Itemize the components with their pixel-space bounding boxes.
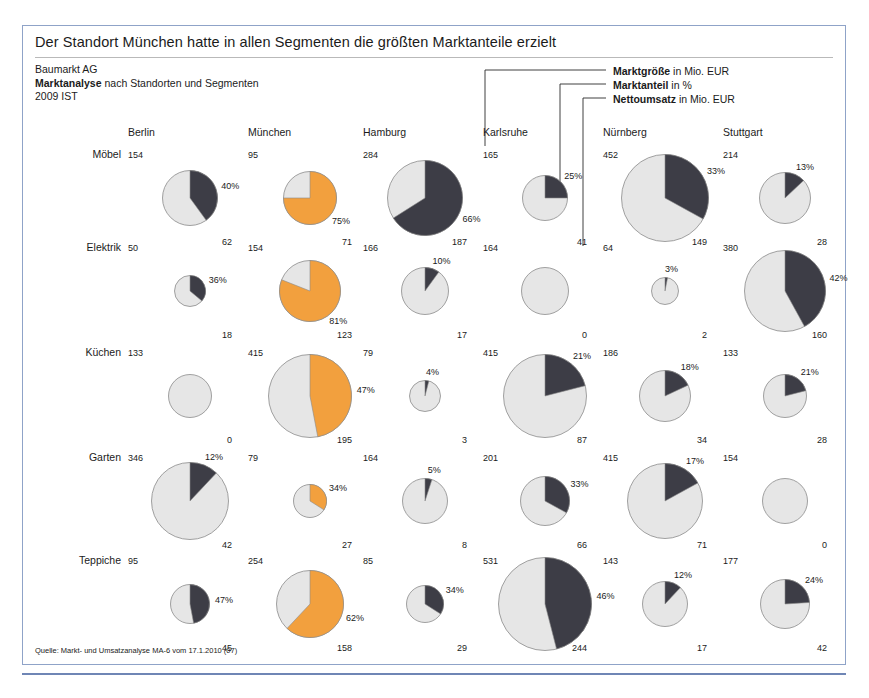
marktanteil-value: 81% xyxy=(329,316,347,326)
pie-cell: 8534%29 xyxy=(363,554,481,659)
pie-chart xyxy=(639,370,691,426)
marktanteil-value: 13% xyxy=(796,162,814,172)
marktgroesse-value: 154 xyxy=(128,150,143,160)
pie-cell: 9547%45 xyxy=(128,554,246,659)
marktgroesse-value: 154 xyxy=(248,243,263,253)
pie-cell: 15440%62 xyxy=(128,148,246,253)
marktgroesse-value: 79 xyxy=(363,348,373,358)
pie-cell: 53146%244 xyxy=(483,554,601,659)
marktgroesse-value: 284 xyxy=(363,150,378,160)
pie-chart xyxy=(162,170,218,230)
pie-cell: 41547%195 xyxy=(248,346,366,451)
pie-chart xyxy=(522,175,568,225)
marktgroesse-value: 214 xyxy=(723,150,738,160)
marktgroesse-value: 415 xyxy=(483,348,498,358)
marktanteil-value: 47% xyxy=(215,595,233,605)
nettoumsatz-value: 2 xyxy=(667,330,707,340)
pie-chart xyxy=(760,579,810,633)
pie-chart xyxy=(293,484,327,522)
pie-cell: 16610%17 xyxy=(363,241,481,346)
pie-cell: 45233%149 xyxy=(603,148,721,253)
marktanteil-value: 4% xyxy=(426,367,439,377)
pie-chart xyxy=(387,160,463,240)
marktgroesse-value: 531 xyxy=(483,556,498,566)
marktgroesse-value: 164 xyxy=(363,453,378,463)
marktgroesse-value: 95 xyxy=(128,556,138,566)
pie-chart xyxy=(406,585,444,627)
marktgroesse-value: 154 xyxy=(723,453,738,463)
marktanteil-value: 42% xyxy=(829,273,847,283)
marktgroesse-value: 380 xyxy=(723,243,738,253)
nettoumsatz-value: 123 xyxy=(312,330,352,340)
marktgroesse-value: 177 xyxy=(723,556,738,566)
row-header-garten: Garten xyxy=(43,451,121,463)
pie-cell: 1330 xyxy=(128,346,246,451)
marktanteil-value: 10% xyxy=(433,256,451,266)
marktanteil-value: 25% xyxy=(564,171,582,181)
marktanteil-value: 34% xyxy=(329,483,347,493)
nettoumsatz-value: 29 xyxy=(427,643,467,653)
pie-chart xyxy=(651,277,679,309)
pie-cell: 1540 xyxy=(723,451,841,556)
marktanteil-value: 66% xyxy=(462,214,480,224)
nettoumsatz-value: 17 xyxy=(667,643,707,653)
nettoumsatz-value: 17 xyxy=(427,330,467,340)
marktanteil-value: 75% xyxy=(332,216,350,226)
nettoumsatz-value: 160 xyxy=(787,330,827,340)
pie-cell: 13321%28 xyxy=(723,346,841,451)
pie-chart xyxy=(498,557,592,655)
nettoumsatz-value: 8 xyxy=(427,540,467,550)
pie-cell: 794%3 xyxy=(363,346,481,451)
pie-chart xyxy=(174,275,206,311)
column-header-berlin: Berlin xyxy=(128,126,155,138)
nettoumsatz-value: 66 xyxy=(547,540,587,550)
pie-cell: 18618%34 xyxy=(603,346,721,451)
marktgroesse-value: 79 xyxy=(248,453,258,463)
pie-chart xyxy=(409,380,441,416)
marktgroesse-value: 415 xyxy=(248,348,263,358)
pie-cell: 7934%27 xyxy=(248,451,366,556)
pie-chart xyxy=(170,584,210,628)
pie-cell: 9575%71 xyxy=(248,148,366,253)
marktanteil-value: 34% xyxy=(446,585,464,595)
marktanteil-value: 33% xyxy=(571,479,589,489)
nettoumsatz-value: 3 xyxy=(427,435,467,445)
pie-chart xyxy=(521,267,569,319)
pie-cell: 25462%158 xyxy=(248,554,366,659)
marktanteil-value: 5% xyxy=(428,465,441,475)
marktanteil-value: 18% xyxy=(681,362,699,372)
report-frame: Der Standort München hatte in allen Segm… xyxy=(22,25,846,665)
marktanteil-value: 17% xyxy=(686,456,704,466)
marktanteil-value: 21% xyxy=(801,367,819,377)
pie-chart xyxy=(401,267,449,319)
source-note: Quelle: Markt- und Umsatzanalyse MA-6 vo… xyxy=(35,646,237,655)
nettoumsatz-value: 195 xyxy=(312,435,352,445)
marktanteil-value: 12% xyxy=(674,570,692,580)
marktanteil-value: 3% xyxy=(665,264,678,274)
pie-cell: 41517%71 xyxy=(603,451,721,556)
marktanteil-value: 62% xyxy=(346,613,364,623)
nettoumsatz-value: 0 xyxy=(547,330,587,340)
marktgroesse-value: 201 xyxy=(483,453,498,463)
marktanteil-value: 24% xyxy=(805,575,823,585)
pie-cell: 21413%28 xyxy=(723,148,841,253)
pie-cell: 17724%42 xyxy=(723,554,841,659)
pie-chart xyxy=(762,478,808,528)
pie-chart xyxy=(268,354,352,442)
nettoumsatz-value: 28 xyxy=(787,435,827,445)
pie-cell: 41521%87 xyxy=(483,346,601,451)
pie-chart xyxy=(520,476,570,530)
pie-chart xyxy=(744,250,826,336)
marktgroesse-value: 133 xyxy=(723,348,738,358)
column-header-nürnberg: Nürnberg xyxy=(603,126,647,138)
marktgroesse-value: 143 xyxy=(603,556,618,566)
nettoumsatz-value: 27 xyxy=(312,540,352,550)
nettoumsatz-value: 87 xyxy=(547,435,587,445)
nettoumsatz-value: 42 xyxy=(192,540,232,550)
marktanteil-value: 36% xyxy=(209,275,227,285)
nettoumsatz-value: 0 xyxy=(192,435,232,445)
marktgroesse-value: 452 xyxy=(603,150,618,160)
nettoumsatz-value: 34 xyxy=(667,435,707,445)
pie-cell: 28466%187 xyxy=(363,148,481,253)
marktanteil-value: 40% xyxy=(221,181,239,191)
